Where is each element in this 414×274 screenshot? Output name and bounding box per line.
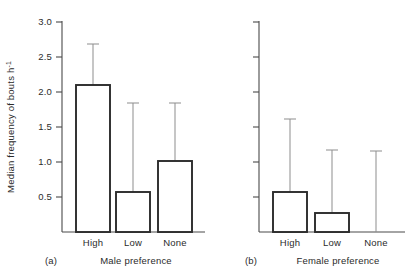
y-axis-label-exponent: -1 <box>5 61 12 67</box>
panel-a-cat-none: None <box>163 237 187 248</box>
figure-container: Median frequency of bouts h-1 3.0 2.5 2. <box>0 0 414 274</box>
y-tick-label-1.5: 1.5 <box>38 121 52 132</box>
panel-a-y-tick-labels: 3.0 2.5 2.0 1.5 1.0 0.5 <box>38 16 52 202</box>
y-tick-label-0.5: 0.5 <box>38 191 52 202</box>
panel-a-y-ticks <box>56 22 62 197</box>
panel-a-cat-high: High <box>83 237 103 248</box>
panel-b-bar-high-group <box>273 119 307 232</box>
panel-b-cat-none: None <box>364 237 388 248</box>
panel-b-tag: (b) <box>245 255 257 266</box>
y-tick-label-3.0: 3.0 <box>38 16 52 27</box>
panel-a: 3.0 2.5 2.0 1.5 1.0 0.5 <box>38 16 205 266</box>
y-tick-label-1.0: 1.0 <box>38 156 52 167</box>
y-axis-label: Median frequency of bouts h-1 <box>5 61 17 193</box>
panel-b-bar-high <box>273 192 307 232</box>
y-axis-label-group: Median frequency of bouts h-1 <box>5 61 17 193</box>
y-tick-label-2.0: 2.0 <box>38 86 52 97</box>
bar-chart-svg: Median frequency of bouts h-1 3.0 2.5 2. <box>0 0 414 274</box>
panel-b-cat-high: High <box>280 237 300 248</box>
panel-a-bar-high-group <box>76 44 110 232</box>
panel-a-bar-none-group <box>158 103 192 232</box>
y-axis-label-text: Median frequency of bouts h <box>5 68 16 193</box>
panel-b-category-labels: High Low None <box>280 237 388 248</box>
panel-b-xlabel: Female preference <box>296 255 379 266</box>
panel-b-bar-low-group <box>315 150 349 232</box>
y-tick-label-2.5: 2.5 <box>38 51 52 62</box>
panel-b: High Low None (b) Female preference <box>245 21 405 266</box>
panel-a-tag: (a) <box>45 255 57 266</box>
panel-a-category-labels: High Low None <box>83 237 187 248</box>
panel-a-bar-low-group <box>116 103 150 232</box>
panel-b-y-ticks <box>253 22 259 197</box>
panel-a-bar-low <box>116 192 150 232</box>
panel-b-cat-low: Low <box>323 237 341 248</box>
panel-a-bar-none <box>158 161 192 232</box>
panel-a-cat-low: Low <box>124 237 142 248</box>
panel-b-bar-low <box>315 213 349 232</box>
panel-a-xlabel: Male preference <box>100 255 172 266</box>
panel-b-bar-none-group <box>370 151 382 232</box>
panel-a-bar-high <box>76 85 110 232</box>
